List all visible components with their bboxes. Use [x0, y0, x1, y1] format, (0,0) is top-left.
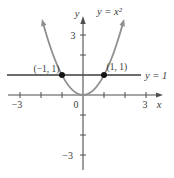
- coordinate-plane: y = x² y = 1 (−1, 1) (1, 1) y x 3 −3 0 −…: [0, 0, 174, 178]
- intersection-point-right: [101, 72, 107, 78]
- x-min-tick-label: −3: [12, 99, 23, 110]
- x-axis-arrow-icon: [156, 92, 163, 97]
- y-axis-label: y: [74, 8, 80, 19]
- point-right-label: (1, 1): [107, 62, 128, 73]
- hline-equation-label: y = 1: [144, 70, 167, 81]
- x-max-tick-label: 3: [143, 99, 148, 110]
- y-axis-arrow-icon: [80, 16, 85, 24]
- origin-label: 0: [74, 99, 79, 110]
- curve-equation-label: y = x²: [96, 6, 123, 17]
- parabola-right-arrow-icon: [120, 19, 125, 27]
- graph-figure: y = x² y = 1 (−1, 1) (1, 1) y x 3 −3 0 −…: [0, 0, 174, 178]
- point-left-label: (−1, 1): [34, 64, 60, 75]
- y-min-tick-label: −3: [62, 150, 73, 161]
- parabola-left-arrow-icon: [41, 19, 46, 27]
- intersection-point-left: [59, 72, 65, 78]
- y-max-tick-label: 3: [71, 30, 76, 41]
- x-axis-label: x: [156, 99, 162, 110]
